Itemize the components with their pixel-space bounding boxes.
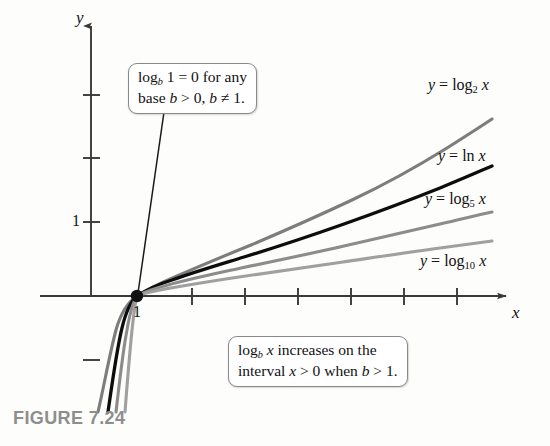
x-axis-tick-label-1: 1: [133, 303, 141, 321]
callout-zero-log: log: [138, 68, 158, 85]
curve-label-log5-eq: = log: [432, 190, 469, 207]
callout-inc-var-x: x: [263, 341, 274, 358]
curve-label-log2-var: x: [478, 76, 489, 93]
curve-label-log5: y = log5 x: [425, 190, 486, 209]
curve-label-ln-var: x: [475, 147, 486, 164]
callout-inc-mid: > 0 when: [296, 362, 362, 379]
callout-log-of-one: logb 1 = 0 for any base b > 0, b ≠ 1.: [128, 63, 257, 114]
figure-container: y x 1 1 y = log2 x y = ln x y = log5 x y…: [0, 0, 550, 446]
curve-label-ln: y = ln x: [438, 147, 486, 165]
callout-zero-var-b2: b: [209, 89, 217, 106]
callout-inc-interval: interval: [238, 362, 289, 379]
figure-caption: FIGURE 7.24: [13, 408, 125, 429]
callout-zero-mid: > 0,: [177, 89, 209, 106]
curve-label-log5-var: x: [475, 190, 486, 207]
callout-zero-end: ≠ 1.: [217, 89, 245, 106]
callout-increasing-line2: interval x > 0 when b > 1.: [238, 362, 398, 381]
callout-zero-basetext: base: [138, 89, 169, 106]
callout-inc-log: log: [238, 341, 258, 358]
callout-leader-line: [138, 112, 164, 293]
curve-label-log10-eq: = log: [427, 252, 464, 269]
callout-zero-rest: 1 = 0 for any: [163, 68, 247, 85]
curve-label-log10: y = log10 x: [420, 252, 486, 271]
callout-zero-var-b1: b: [169, 89, 177, 106]
y-axis-label: y: [76, 8, 84, 28]
curve-label-log10-base: 10: [465, 260, 476, 271]
callout-increasing-line1: logb x increases on the: [238, 341, 398, 362]
origin-point-marker: [131, 290, 143, 302]
x-axis-label: x: [512, 303, 520, 323]
y-axis-tick-label-1: 1: [72, 212, 80, 230]
callout-log-of-one-line2: base b > 0, b ≠ 1.: [138, 89, 247, 108]
callout-inc-end: > 1.: [369, 362, 397, 379]
callout-inc-rest: increases on the: [274, 341, 377, 358]
callout-log-of-one-line1: logb 1 = 0 for any: [138, 68, 247, 89]
curve-label-log10-var: x: [475, 252, 486, 269]
callout-increasing: logb x increases on the interval x > 0 w…: [228, 336, 408, 387]
curve-label-log2-eq: = log: [435, 76, 472, 93]
curve-label-ln-eq: = ln: [445, 147, 474, 164]
curve-label-log2: y = log2 x: [428, 76, 489, 95]
